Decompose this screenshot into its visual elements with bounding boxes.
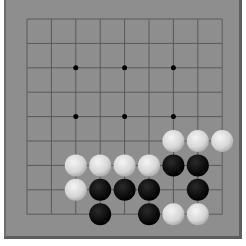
black-stone: [138, 203, 160, 225]
star-point: [122, 114, 127, 119]
black-stone: [187, 179, 209, 201]
star-point: [73, 65, 78, 70]
white-stone: [162, 203, 184, 225]
star-point: [171, 65, 176, 70]
black-stone: [89, 179, 111, 201]
star-point: [171, 114, 176, 119]
white-stone: [114, 154, 136, 176]
star-point: [122, 65, 127, 70]
go-board-grid[interactable]: [0, 0, 246, 246]
white-stone: [187, 203, 209, 225]
white-stone: [65, 154, 87, 176]
black-stone: [138, 179, 160, 201]
black-stone: [187, 154, 209, 176]
white-stone: [138, 154, 160, 176]
white-stone: [162, 130, 184, 152]
white-stone: [65, 179, 87, 201]
star-point: [73, 114, 78, 119]
white-stone: [89, 154, 111, 176]
white-stone: [211, 130, 233, 152]
black-stone: [162, 154, 184, 176]
black-stone: [114, 179, 136, 201]
white-stone: [187, 130, 209, 152]
black-stone: [89, 203, 111, 225]
